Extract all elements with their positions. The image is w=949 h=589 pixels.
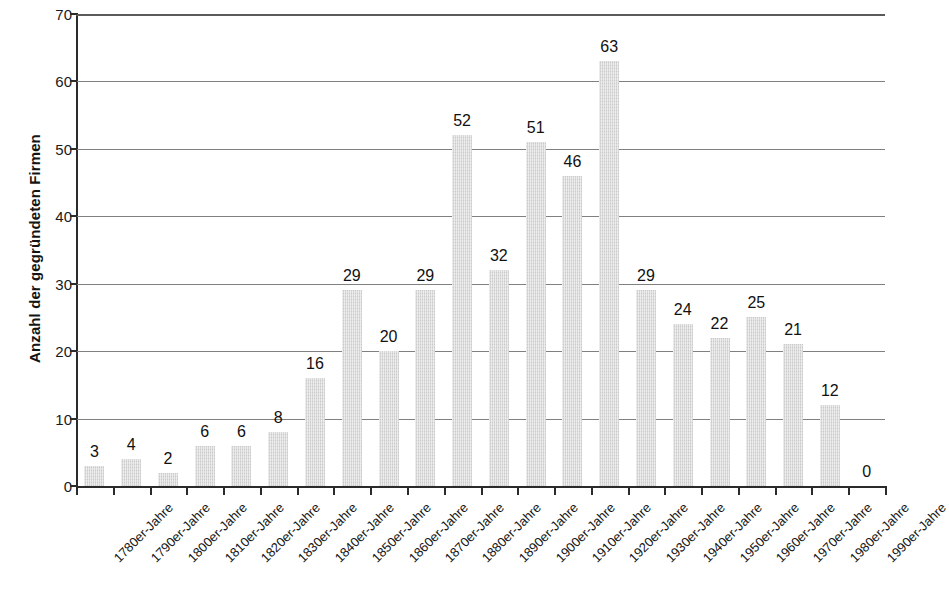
y-tick-label-70: 70 — [28, 7, 72, 22]
x-axis-label: 1950er-Jahre — [736, 500, 801, 565]
x-axis-label: 1780er-Jahre — [111, 500, 176, 565]
bar-value-label: 2 — [146, 451, 190, 467]
y-tick-mark-0 — [70, 485, 77, 487]
gridline-30 — [76, 284, 885, 285]
gridline-40 — [76, 216, 885, 217]
x-axis-label: 1980er-Jahre — [846, 500, 911, 565]
y-tick-mark-40 — [70, 215, 77, 217]
gridline-70 — [76, 14, 885, 16]
bar — [489, 270, 509, 486]
bar-value-label: 52 — [440, 113, 484, 129]
y-tick-label-60: 60 — [28, 74, 72, 89]
x-axis-label: 1800er-Jahre — [185, 500, 250, 565]
x-axis-label: 1900er-Jahre — [552, 500, 617, 565]
bar-value-label: 20 — [367, 329, 411, 345]
y-tick-mark-30 — [70, 283, 77, 285]
y-tick-label-50: 50 — [28, 142, 72, 157]
x-axis-label: 1880er-Jahre — [479, 500, 544, 565]
bar — [673, 324, 693, 486]
bar — [562, 176, 582, 486]
bar — [268, 432, 288, 486]
x-axis-label: 1820er-Jahre — [258, 500, 323, 565]
x-axis-label: 1830er-Jahre — [295, 500, 360, 565]
gridline-60 — [76, 81, 885, 82]
bar — [783, 344, 803, 486]
y-tick-mark-60 — [70, 80, 77, 82]
bar-value-label: 29 — [624, 268, 668, 284]
bar — [342, 290, 362, 486]
y-tick-label-40: 40 — [28, 209, 72, 224]
bar — [158, 473, 178, 486]
bar — [415, 290, 435, 486]
bar — [710, 338, 730, 486]
bar — [820, 405, 840, 486]
x-tick-mark — [885, 486, 887, 495]
x-axis-label: 1790er-Jahre — [148, 500, 213, 565]
x-axis-label: 1890er-Jahre — [516, 500, 581, 565]
y-tick-mark-10 — [70, 418, 77, 420]
bar — [746, 317, 766, 486]
y-tick-label-20: 20 — [28, 344, 72, 359]
x-axis-label: 1930er-Jahre — [663, 500, 728, 565]
gridline-50 — [76, 149, 885, 150]
x-axis-label: 1840er-Jahre — [332, 500, 397, 565]
y-tick-mark-50 — [70, 148, 77, 150]
x-axis-label: 1870er-Jahre — [442, 500, 507, 565]
x-axis-label: 1970er-Jahre — [810, 500, 875, 565]
bar — [379, 351, 399, 486]
gridline-0 — [76, 486, 885, 488]
bar-value-label: 51 — [514, 120, 558, 136]
bar-value-label: 22 — [698, 316, 742, 332]
y-tick-mark-20 — [70, 350, 77, 352]
bar — [305, 378, 325, 486]
bar-value-label: 0 — [845, 464, 889, 480]
bar-value-label: 29 — [403, 268, 447, 284]
x-axis-label: 1810er-Jahre — [221, 500, 286, 565]
y-axis-tick-labels: 010203040506070 — [28, 14, 72, 486]
bar-value-label: 25 — [734, 295, 778, 311]
bar-value-label: 46 — [550, 154, 594, 170]
bar-value-label: 32 — [477, 248, 521, 264]
bar — [636, 290, 656, 486]
x-axis-label: 1990er-Jahre — [883, 500, 948, 565]
x-axis-label: 1850er-Jahre — [368, 500, 433, 565]
bar-value-label: 63 — [587, 39, 631, 55]
bar — [84, 466, 104, 486]
x-axis-label: 1920er-Jahre — [626, 500, 691, 565]
bar — [195, 446, 215, 486]
x-axis-label: 1860er-Jahre — [405, 500, 470, 565]
x-axis-label: 1940er-Jahre — [699, 500, 764, 565]
bar-value-label: 29 — [330, 268, 374, 284]
y-tick-label-0: 0 — [28, 479, 72, 494]
bar — [526, 142, 546, 486]
bar — [452, 135, 472, 486]
bar — [231, 446, 251, 486]
x-axis-label: 1910er-Jahre — [589, 500, 654, 565]
bar-value-label: 16 — [293, 356, 337, 372]
plot-area: 3426681629202952325146632924222521120 — [76, 14, 885, 486]
bar-value-label: 21 — [771, 322, 815, 338]
bar — [599, 61, 619, 486]
y-tick-label-10: 10 — [28, 412, 72, 427]
y-tick-mark-70 — [70, 13, 77, 15]
bar-value-label: 8 — [256, 410, 300, 426]
bar — [121, 459, 141, 486]
y-tick-label-30: 30 — [28, 277, 72, 292]
x-axis-label: 1960er-Jahre — [773, 500, 838, 565]
bar-value-label: 12 — [808, 383, 852, 399]
